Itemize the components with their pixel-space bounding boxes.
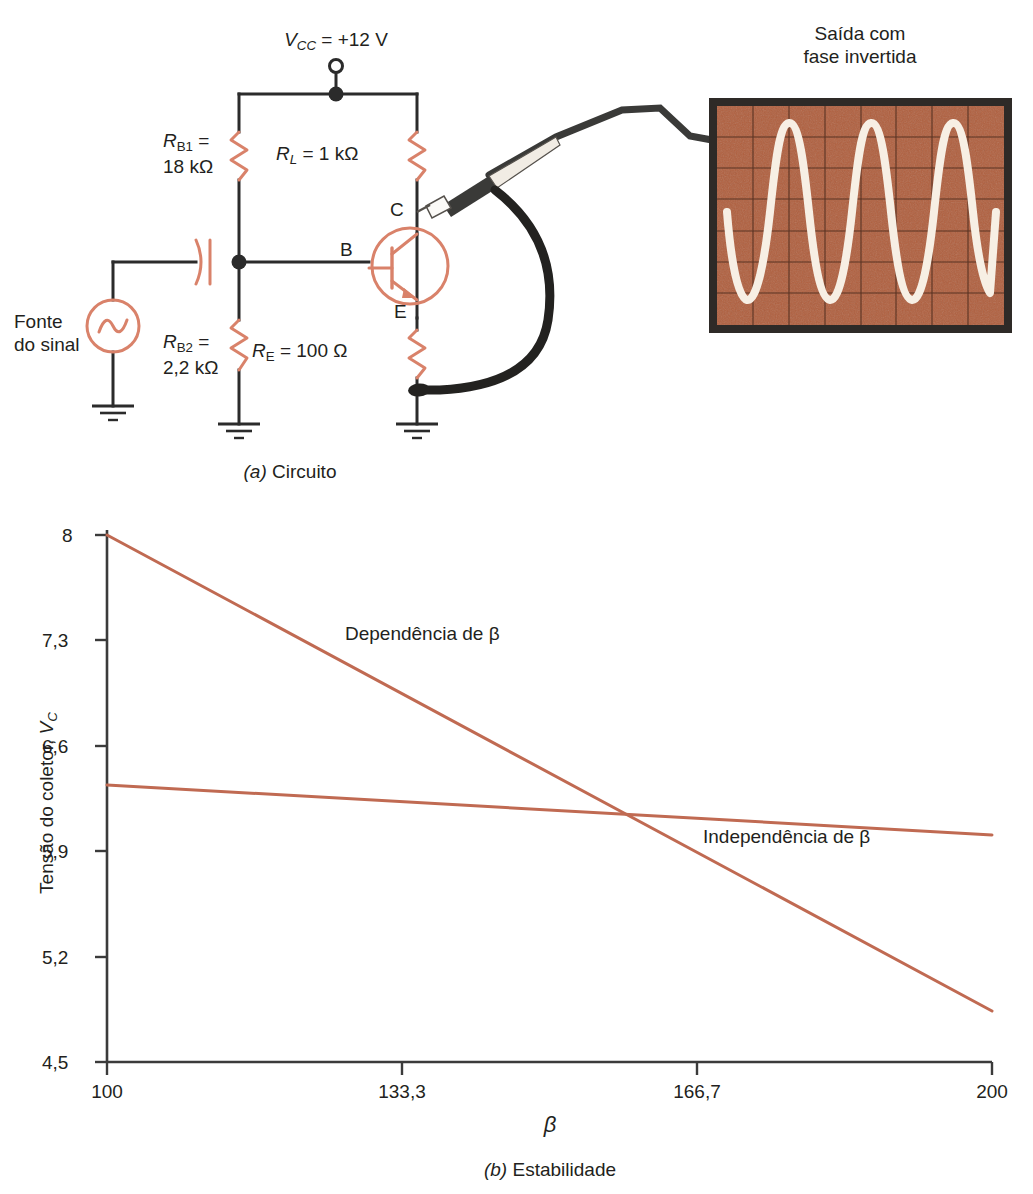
y-axis-title: Tensão do coletor, VC [35,673,61,933]
rb1-label: RB1 = 18 kΩ [163,129,213,178]
vcc-symbol: V [284,29,297,50]
rb1-equals: = [193,130,209,151]
annotation-independencia: Independência de β [703,825,870,848]
circuit-wires [113,72,417,424]
rb2-label: RB2 = 2,2 kΩ [163,330,218,379]
figure-page: VCC = +12 V RB1 = 18 kΩ RB2 = 2,2 kΩ RL … [0,0,1033,1194]
rb2-value: 2,2 kΩ [163,356,218,379]
circuit-schematic [0,0,1033,500]
y-tick-label-8: 8 [62,524,73,547]
transistor-emitter-arrow [402,288,416,298]
panel-b-caption-text: Estabilidade [512,1159,616,1180]
probe-tip [426,196,451,218]
probe-ground-clip [408,383,431,398]
probe-body [443,176,497,217]
scope-title: Saída com fase invertida [803,22,916,68]
re-subscript: E [266,349,275,364]
vcc-terminal [330,60,343,73]
x-tick-label-166-7: 166,7 [673,1080,721,1103]
resistor-rl [409,132,425,180]
y-axis-title-text: Tensão do coletor, [36,734,57,894]
re-label: RE = 100 Ω [252,339,347,365]
y-tick-label-4-5: 4,5 [42,1051,68,1074]
panel-b-stability-chart: 8 7,3 6,6 5,9 5,2 4,5 100 133,3 166,7 20… [0,500,1033,1194]
transistor-collector-lead [392,234,417,254]
rb2-symbol: R [163,331,177,352]
y-axis-title-symbol: V [36,722,57,735]
vcc-value: = +12 V [316,29,388,50]
oscilloscope-screen [709,98,1012,333]
rl-symbol: R [276,143,290,164]
x-axis-ticks [107,1062,992,1075]
re-value: = 100 Ω [275,340,348,361]
probe-barrel [489,137,560,188]
y-tick-label-7-3: 7,3 [42,629,68,652]
rl-label: RL = 1 kΩ [276,142,358,168]
junction-dot-base [232,255,247,270]
y-tick-label-5-2: 5,2 [42,946,68,969]
panel-a-caption: (a) Circuito [244,460,337,483]
panel-a-caption-text: Circuito [272,461,336,482]
rb2-equals: = [193,331,209,352]
vcc-label: VCC = +12 V [284,28,388,54]
scope-title-line1: Saída com [803,22,916,45]
panel-b-caption-letter: (b) [484,1159,507,1180]
vcc-subscript: CC [297,38,316,53]
resistor-re [409,330,425,378]
sine-glyph [99,320,127,332]
signal-source-label: Fonte do sinal [14,310,80,356]
panel-b-caption: (b) Estabilidade [484,1158,616,1181]
rl-value: = 1 kΩ [297,143,358,164]
signal-source-line2: do sinal [14,333,80,356]
signal-source-line1: Fonte [14,310,80,333]
y-axis-title-subscript: C [45,712,60,722]
series-line-dependencia [107,535,992,1011]
rb2-subscript: B2 [177,340,193,355]
ground-symbols [92,406,438,438]
terminal-label-c: C [390,198,404,221]
rb1-subscript: B1 [177,139,193,154]
rb1-value: 18 kΩ [163,155,213,178]
rb1-symbol: R [163,130,177,151]
junction-dot-vcc [329,87,344,102]
oscilloscope-probe-assembly [408,108,712,397]
resistor-rb2 [231,320,247,370]
x-tick-label-100: 100 [91,1080,123,1103]
plot-axes [107,530,992,1062]
panel-a-caption-letter: (a) [244,461,267,482]
x-tick-label-200: 200 [976,1080,1008,1103]
terminal-label-e: E [394,300,407,323]
x-tick-label-133-3: 133,3 [378,1080,426,1103]
terminal-label-b: B [340,238,353,261]
resistor-rb1 [231,132,247,180]
scope-title-line2: fase invertida [803,45,916,68]
annotation-dependencia: Dependência de β [345,622,500,645]
panel-a-circuit: VCC = +12 V RB1 = 18 kΩ RB2 = 2,2 kΩ RL … [0,0,1033,500]
re-symbol: R [252,340,266,361]
y-axis-ticks [95,535,107,1062]
x-axis-title: β [544,1112,557,1139]
stability-plot [0,500,1033,1194]
